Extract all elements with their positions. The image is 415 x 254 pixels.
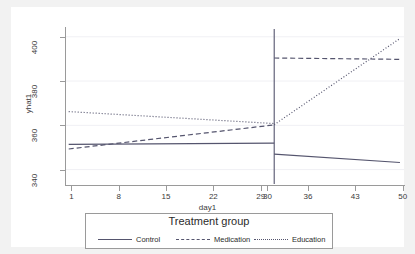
chart-figure: 3403603804001815222930364350 yhat1 day1 … — [0, 0, 415, 254]
x-tick-mark — [166, 186, 167, 191]
x-tick-label: 15 — [154, 192, 178, 201]
legend-entry-label: Education — [292, 235, 325, 244]
legend-entry-label: Medication — [214, 235, 250, 244]
x-tick-label: 1 — [59, 192, 83, 201]
y-axis-title: yhat1 — [24, 84, 33, 124]
x-tick-label: 43 — [343, 192, 367, 201]
y-tick-label: 400 — [30, 35, 39, 59]
x-tick-mark — [213, 186, 214, 191]
x-tick-label: 8 — [107, 192, 131, 201]
chart-canvas: 3403603804001815222930364350 yhat1 day1 … — [11, 7, 404, 247]
x-tick-label: 36 — [296, 192, 320, 201]
y-axis-line — [65, 27, 66, 186]
y-tick-mark — [60, 125, 65, 126]
y-tick-mark — [60, 81, 65, 82]
x-tick-label: 22 — [201, 192, 225, 201]
legend-box: Treatment group ControlMedicationEducati… — [85, 213, 333, 249]
x-tick-mark — [119, 186, 120, 191]
dotted-line-key — [254, 239, 288, 242]
plot-region — [66, 29, 404, 184]
x-tick-label: 50 — [391, 192, 415, 201]
y-tick-mark — [60, 170, 65, 171]
legend-title: Treatment group — [86, 215, 332, 227]
legend-entry-label: Control — [136, 235, 160, 244]
x-tick-mark — [267, 186, 268, 191]
x-tick-mark — [308, 186, 309, 191]
x-axis-title: day1 — [11, 203, 404, 212]
y-tick-mark — [60, 37, 65, 38]
solid-line-key — [98, 239, 132, 242]
plot-svg — [66, 29, 404, 184]
x-tick-mark — [355, 186, 356, 191]
y-tick-label: 340 — [30, 168, 39, 192]
x-tick-label: 30 — [255, 192, 279, 201]
x-axis-line — [65, 185, 405, 186]
y-tick-label: 360 — [30, 124, 39, 148]
legend-entries: ControlMedicationEducation — [86, 233, 332, 247]
x-tick-mark — [261, 186, 262, 191]
x-tick-mark — [71, 186, 72, 191]
x-tick-mark — [403, 186, 404, 191]
dashed-line-key — [176, 239, 210, 242]
